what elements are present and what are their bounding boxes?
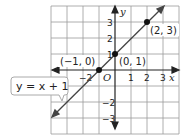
x-tick-1: 1 [128,73,134,83]
point-label-0-1: (0, 1) [119,56,146,67]
point-label-2-3: (2, 3) [150,25,177,36]
y-tick-3: 3 [107,18,113,28]
equation-callout: y = x + 1 [11,77,68,101]
point-0-1 [112,51,118,57]
y-axis-label: y [119,6,126,17]
x-axis-label: x [169,72,175,83]
y-axis-top-arrow-icon [112,6,118,13]
y-tick-2: 2 [107,34,113,44]
x-tick-2: 2 [144,73,150,83]
x-tick-neg2: −2 [79,73,92,83]
x-tick-3: 3 [160,73,166,83]
y-tick-neg2: −2 [102,98,115,108]
equation-label: y = x + 1 [16,80,68,93]
coordinate-graph: −2 1 2 3 x O 3 2 1 −2 −3 y (−1, 0) (0, 1… [0,0,189,138]
y-tick-neg3: −3 [102,114,115,124]
x-axis-left-arrow-icon [52,67,59,73]
origin-label: O [103,72,111,83]
point-neg1-0 [96,67,102,73]
point-label-neg1-0: (−1, 0) [60,56,95,67]
